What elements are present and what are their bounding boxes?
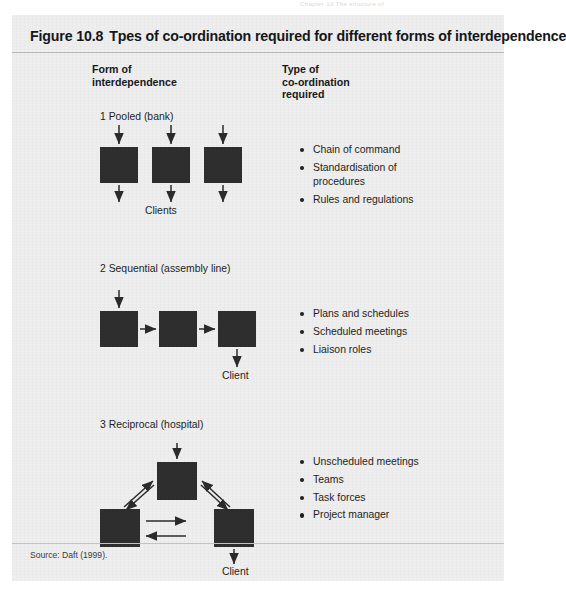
figure-source: Source: Daft (1999).	[30, 550, 107, 560]
bullet-text: Task forces	[313, 492, 366, 503]
caption-pooled-output: Clients	[145, 205, 177, 216]
caption-reciprocal-output: Client	[222, 566, 249, 577]
bullet-item: Scheduled meetings	[300, 325, 409, 339]
bullet-text: Project manager	[313, 509, 389, 520]
bullet-item: Project manager	[300, 508, 419, 522]
bullet-item: Plans and schedules	[300, 307, 409, 321]
arrow-reciprocal-right-to-top	[202, 481, 230, 507]
section-label-reciprocal: 3 Reciprocal (hospital)	[100, 419, 203, 430]
node-pooled-1	[100, 147, 138, 183]
bullet-text: Plans and schedules	[313, 308, 409, 319]
bullet-text: Rules and regulations	[313, 194, 414, 205]
bullet-list-pooled: Chain of command Standardisation of proc…	[300, 143, 414, 211]
node-reciprocal-left	[100, 509, 140, 547]
bullet-dot-icon	[300, 460, 304, 464]
bullet-item: Unscheduled meetings	[300, 455, 419, 469]
node-sequential-1	[100, 311, 138, 347]
arrow-reciprocal-top-to-right	[201, 485, 228, 510]
figure-number: Figure 10.8	[30, 28, 103, 44]
bullet-dot-icon	[300, 330, 304, 334]
node-sequential-3	[218, 311, 256, 347]
bullet-text: Scheduled meetings	[313, 326, 407, 337]
bullet-item: Chain of command	[300, 143, 414, 157]
footer-divider	[12, 543, 504, 544]
bullet-item: Liaison roles	[300, 343, 409, 357]
bullet-dot-icon	[300, 166, 304, 170]
page-running-head: Chapter 10 The structure of	[300, 1, 500, 7]
bullet-item: Rules and regulations	[300, 193, 414, 207]
figure-title: Figure 10.8Tpes of co-ordination require…	[30, 28, 566, 44]
bullet-dot-icon	[300, 513, 304, 517]
section-label-pooled: 1 Pooled (bank)	[100, 111, 173, 122]
bullet-dot-icon	[300, 198, 304, 202]
bullet-item: Task forces	[300, 491, 419, 505]
bullet-dot-icon	[300, 496, 304, 500]
bullet-text: Liaison roles	[313, 344, 371, 355]
bullet-dot-icon	[300, 348, 304, 352]
bullet-text: Standardisation of procedures	[313, 162, 397, 187]
node-pooled-3	[204, 147, 242, 183]
bullet-text: Unscheduled meetings	[313, 456, 419, 467]
arrow-reciprocal-left-to-top	[124, 481, 153, 507]
diagram-arrows	[12, 15, 504, 581]
bullet-dot-icon	[300, 312, 304, 316]
bullet-dot-icon	[300, 478, 304, 482]
bullet-text: Chain of command	[313, 144, 400, 155]
bullet-dot-icon	[300, 148, 304, 152]
figure-panel: Figure 10.8Tpes of co-ordination require…	[12, 15, 504, 581]
bullet-item: Standardisation of procedures	[300, 161, 414, 190]
node-pooled-2	[152, 147, 190, 183]
node-sequential-2	[159, 311, 197, 347]
figure-title-text: Tpes of co-ordination required for diffe…	[109, 28, 566, 44]
node-reciprocal-top	[157, 462, 197, 500]
bullet-item: Teams	[300, 473, 419, 487]
bullet-list-sequential: Plans and schedules Scheduled meetings L…	[300, 307, 409, 360]
column-heading-type: Type of co-ordination required	[282, 63, 350, 101]
node-reciprocal-right	[214, 509, 254, 547]
title-divider	[12, 52, 504, 53]
arrow-reciprocal-top-to-left	[126, 485, 154, 510]
section-label-sequential: 2 Sequential (assembly line)	[100, 263, 231, 274]
bullet-list-reciprocal: Unscheduled meetings Teams Task forces P…	[300, 455, 419, 526]
column-heading-form: Form of interdependence	[92, 63, 177, 88]
bullet-text: Teams	[313, 474, 344, 485]
caption-sequential-output: Client	[222, 370, 249, 381]
